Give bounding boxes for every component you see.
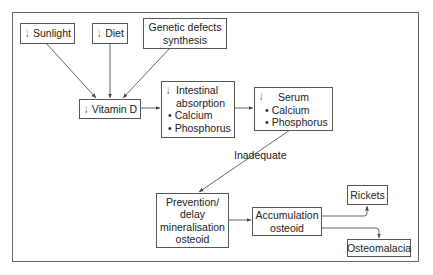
node-diet-label: Diet (105, 27, 124, 40)
node-diet: ↓ Diet (92, 23, 128, 44)
node-prevention-line1: Prevention/ (166, 196, 219, 209)
node-rickets: Rickets (347, 185, 388, 205)
down-arrow-icon: ↓ (84, 103, 88, 116)
down-arrow-icon: ↓ (25, 27, 29, 40)
node-accumulation-line1: Accumulation (255, 209, 318, 222)
node-genetic-line2: synthesis (163, 34, 207, 47)
edge-label-inadequate: Inadequate (233, 149, 288, 161)
node-accumulation-osteoid: Accumulation osteoid (252, 207, 322, 236)
node-vitamin-d: ↓ Vitamin D (79, 99, 141, 119)
node-intestinal-item-phosphorus: Phosphorus (166, 122, 234, 135)
node-sunlight: ↓ Sunlight (20, 23, 75, 44)
node-intestinal-item-calcium: Calcium (166, 109, 234, 122)
down-arrow-icon: ↓ (97, 27, 101, 40)
node-serum-item-phosphorus: Phosphorus (261, 116, 332, 129)
arrow-accumulation-to-osteomalacia (321, 228, 379, 238)
node-prevention-line4: osteoid (176, 233, 210, 246)
node-rickets-label: Rickets (350, 189, 384, 202)
node-intestinal-line2: absorption (166, 97, 234, 110)
node-accumulation-line2: osteoid (270, 222, 304, 235)
node-genetic-line1: Genetic defects (149, 21, 222, 34)
node-prevention-delay-mineralisation: Prevention/ delay mineralisation osteoid (156, 193, 229, 248)
node-genetic-defects: Genetic defects synthesis (143, 18, 227, 49)
arrow-serum-to-prevention (199, 130, 290, 192)
node-intestinal-absorption: ↓ Intestinal absorption Calcium Phosphor… (161, 81, 235, 138)
node-sunlight-label: Sunlight (33, 27, 71, 40)
node-intestinal-line1: Intestinal (166, 84, 234, 97)
node-osteomalacia-label: Osteomalacia (347, 242, 411, 255)
arrow-sunlight-to-vitamin-d (46, 43, 96, 98)
arrow-accumulation-to-rickets (321, 206, 367, 216)
node-vitamin-d-label: Vitamin D (92, 103, 137, 116)
node-osteomalacia: Osteomalacia (347, 239, 411, 257)
node-prevention-line2: delay (180, 208, 205, 221)
node-serum-title: Serum (261, 91, 332, 104)
node-serum: ↓ Serum Calcium Phosphorus (254, 87, 333, 131)
down-arrow-icon: ↓ (166, 84, 170, 97)
node-serum-item-calcium: Calcium (261, 104, 332, 117)
node-prevention-line3: mineralisation (160, 221, 225, 234)
down-arrow-icon: ↓ (259, 90, 263, 103)
